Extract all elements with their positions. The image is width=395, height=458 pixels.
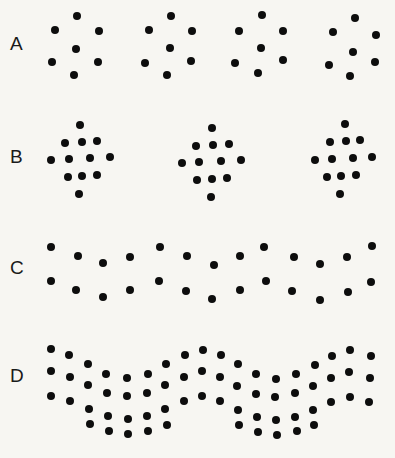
dot [351,14,359,22]
dot [72,45,80,53]
dot [290,253,298,261]
dot [85,405,93,413]
dot [66,397,74,405]
dot [65,351,73,359]
dot [145,26,153,34]
dot [234,360,242,368]
dot [325,61,333,69]
dot [272,375,280,383]
dot [327,398,335,406]
dot [93,137,101,145]
dot [258,11,266,19]
dot [216,397,224,405]
dot [195,158,203,166]
dot [124,415,132,423]
dot [346,393,354,401]
dot [74,252,82,260]
dot [235,27,243,35]
dot [356,136,364,144]
row-label-c: C [10,258,24,277]
dot [209,141,217,149]
dot [47,243,55,251]
dot [181,351,189,359]
dot [310,421,318,429]
dot [292,370,300,378]
dot [273,431,281,439]
dot [123,392,131,400]
dot [352,171,360,179]
dot [371,58,379,66]
dot [94,58,102,66]
row-label-a: A [10,34,23,53]
row-label-b: B [10,147,23,166]
dot [346,72,354,80]
dot [126,253,134,261]
dot [225,140,233,148]
row-label-d: D [10,366,24,385]
dot [271,393,279,401]
dot [76,121,84,129]
dot [279,56,287,64]
dot [349,154,357,162]
dot [337,172,345,180]
dot [156,243,164,251]
dot [346,346,354,354]
dot [192,142,200,150]
dot [262,277,270,285]
dot [368,242,376,250]
dot [86,154,94,162]
dot [105,427,113,435]
dot [163,71,171,79]
dot [70,71,78,79]
dot [47,156,55,164]
dot [61,139,69,147]
dot [342,137,350,145]
dot [99,259,107,267]
dot [327,374,335,382]
dot [372,31,380,39]
dot [75,190,83,198]
dot [208,295,216,303]
dot [180,397,188,405]
dot [86,420,94,428]
dot [47,277,55,285]
dot [235,421,243,429]
dot [252,390,260,398]
dot [367,278,375,286]
dot [311,156,319,164]
dot [309,406,317,414]
dot [368,153,376,161]
dot [198,367,206,375]
dot [104,412,112,420]
dot [223,174,231,182]
dot [66,373,74,381]
dot [234,406,242,414]
dot [216,373,224,381]
dot [166,44,174,52]
dot [144,370,152,378]
dot [260,243,268,251]
dot [99,293,107,301]
dot [343,253,351,261]
dot [254,428,262,436]
dot [47,367,55,375]
dot [341,120,349,128]
dot [51,26,59,34]
dot [198,392,206,400]
dot [124,430,132,438]
dot [180,373,188,381]
dot [366,374,374,382]
dot [95,27,103,35]
dot [65,155,73,163]
dot [193,176,201,184]
dot [367,352,375,360]
dot [365,398,373,406]
dot [141,59,149,67]
dot [143,389,151,397]
dot [48,58,56,66]
dot [93,171,101,179]
dot [163,421,171,429]
dot [155,277,163,285]
dot [188,27,196,35]
dot [237,156,245,164]
